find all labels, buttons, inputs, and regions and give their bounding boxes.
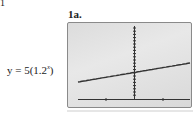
graph xyxy=(0,0,194,113)
y-axis xyxy=(133,26,136,100)
